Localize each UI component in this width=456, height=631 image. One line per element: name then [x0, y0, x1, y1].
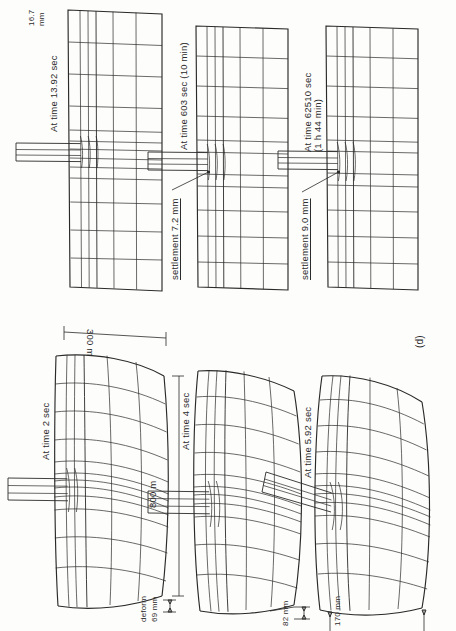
panel-2-time-label: At time 4 sec — [180, 392, 191, 450]
figure-plate: At time 13.92 sec 16.7 mm — [0, 0, 456, 631]
panel-time-4-sec — [190, 367, 310, 617]
panel-4-value-line1: 16.7 — [27, 10, 36, 26]
panel-6-settlement-label: settlement 9.0 mm — [299, 198, 310, 280]
mesh-62510-sec — [318, 22, 426, 294]
panel-time-13-92-sec — [58, 6, 168, 296]
panel-3-value-label: 170 mm — [333, 596, 342, 626]
panel-3-time-label: At time 5.92 sec — [302, 407, 313, 478]
panel-4-time-label: At time 13.92 sec — [48, 55, 59, 132]
mesh-5-92-sec — [312, 372, 438, 620]
mesh-4-sec — [190, 367, 310, 617]
panel-1-height-dimension: 800 m — [147, 481, 158, 508]
panel-1-deform-line1: deform — [139, 596, 148, 622]
panel-time-5-92-sec — [312, 372, 438, 620]
panel-time-603-sec — [188, 22, 296, 294]
panel-1-deform-line2: 69 mm — [150, 597, 159, 622]
panel-5-settlement-label: settlement 7.2 mm — [169, 198, 180, 280]
panel-1-time-label: At time 2 sec — [40, 402, 51, 460]
panel-time-62510-sec — [318, 22, 426, 294]
panel-1-width-dimension: 300 m — [85, 329, 96, 356]
figure-caption: (d) — [414, 335, 425, 348]
panel-5-time-label: At time 603 sec (10 min) — [178, 42, 189, 150]
panel-2-value-label: 82 mm — [281, 601, 290, 626]
panel-6-time-label-line2: (1 h 44 min) — [312, 99, 323, 152]
panel-4-value-line2: mm — [37, 12, 46, 26]
mesh-13-92-sec — [58, 6, 168, 296]
mesh-603-sec — [188, 22, 296, 294]
